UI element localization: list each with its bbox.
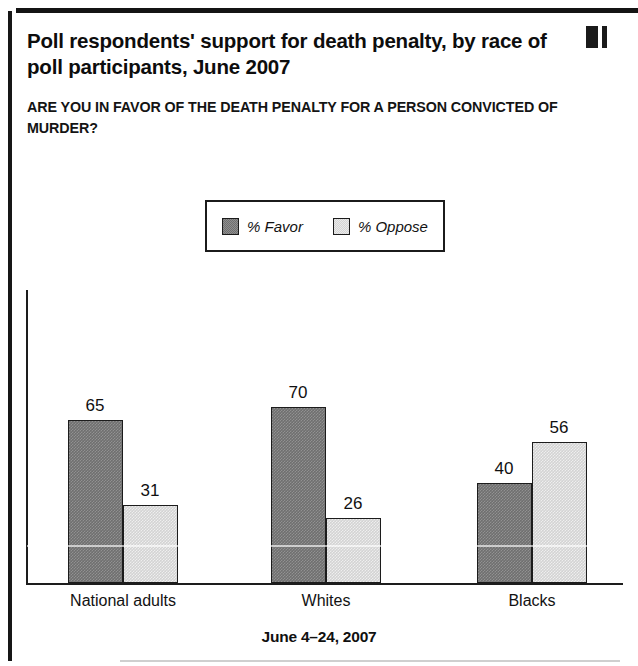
- bar-whites-favor: [271, 407, 326, 583]
- bar-national-adults-favor: [68, 420, 123, 583]
- bar-whites-oppose: [326, 518, 381, 583]
- page-scan-artifact-2: [602, 26, 607, 48]
- legend-label-favor: % Favor: [247, 218, 303, 235]
- category-label-blacks: Blacks: [508, 592, 555, 610]
- legend-swatch-favor-icon: [222, 218, 239, 235]
- bar-blacks-oppose: [532, 442, 587, 583]
- y-axis-line: [26, 290, 28, 583]
- bar-blacks-favor: [477, 483, 532, 583]
- scan-artifact-line: [27, 545, 621, 547]
- page-border-bottom: [120, 660, 620, 662]
- category-label-national-adults: National adults: [70, 592, 176, 610]
- chart-legend: % Favor % Oppose: [205, 200, 445, 252]
- bar-value-label: 31: [122, 481, 178, 501]
- legend-item-favor: % Favor: [222, 218, 303, 235]
- page-scan-artifact: [586, 26, 598, 48]
- bar-value-label: 70: [270, 383, 326, 403]
- category-label-whites: Whites: [302, 592, 351, 610]
- bar-value-label: 40: [476, 459, 532, 479]
- page-border-left: [8, 11, 12, 661]
- x-axis-line: [26, 583, 623, 585]
- bar-value-label: 26: [325, 494, 381, 514]
- chart-page: Poll respondents' support for death pena…: [0, 0, 638, 666]
- bar-national-adults-oppose: [123, 505, 178, 583]
- legend-label-oppose: % Oppose: [358, 218, 428, 235]
- chart-subtitle: ARE YOU IN FAVOR OF THE DEATH PENALTY FO…: [27, 97, 587, 139]
- legend-swatch-oppose-icon: [333, 218, 350, 235]
- bar-value-label: 56: [531, 418, 587, 438]
- page-border-top: [16, 8, 638, 13]
- chart-footer-caption: June 4–24, 2007: [0, 628, 638, 646]
- page-title: Poll respondents' support for death pena…: [27, 28, 582, 80]
- bar-value-label: 65: [67, 396, 123, 416]
- legend-item-oppose: % Oppose: [333, 218, 428, 235]
